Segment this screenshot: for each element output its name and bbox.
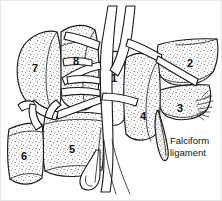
- segment-label-2: 2: [187, 57, 193, 69]
- portal-vein-cross-branch: [61, 88, 100, 96]
- segment-label-5: 5: [69, 143, 75, 155]
- falciform-ligament-membrane: [155, 110, 168, 161]
- segment-label-8: 8: [73, 55, 79, 67]
- falciform-ligament-label-line1: Falciform: [170, 135, 209, 146]
- segment-label-7: 7: [32, 62, 38, 74]
- liver-segments-figure: 7 8 1 2 3 4 5 6 Falciform ligament: [0, 0, 222, 201]
- segment-7-shape: [17, 31, 61, 112]
- segment-label-1: 1: [111, 72, 117, 84]
- segment-label-6: 6: [21, 150, 27, 162]
- segment-label-4: 4: [140, 110, 147, 122]
- portal-vein-right-upper: [67, 76, 100, 84]
- segment-label-3: 3: [177, 102, 183, 114]
- liver-diagram-svg: 7 8 1 2 3 4 5 6 Falciform ligament: [0, 0, 222, 201]
- falciform-ligament-label-line2: ligament: [170, 147, 206, 158]
- segment-3-shape: [158, 85, 210, 120]
